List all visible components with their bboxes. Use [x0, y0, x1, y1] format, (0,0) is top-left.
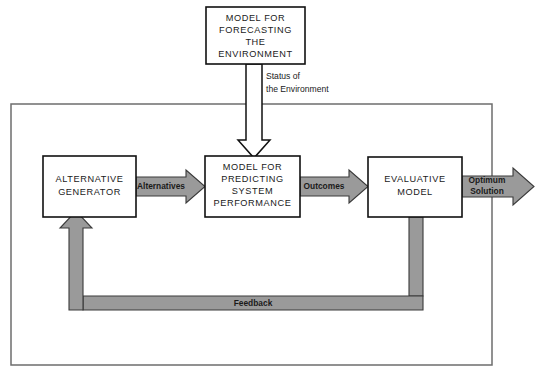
box-evaluative-model: EVALUATIVE MODEL [368, 157, 462, 217]
box-predicting-model: MODEL FOR PREDICTING SYSTEM PERFORMANCE [205, 156, 300, 217]
optimum-solution-label-line2: Solution [470, 186, 504, 196]
box-predicting-model-line-1: MODEL FOR [223, 162, 283, 172]
alternatives-label: Alternatives [137, 181, 185, 191]
box-alternative-generator-line-1: ALTERNATIVE [55, 174, 123, 184]
optimum-solution-label-line1: Optimum [469, 175, 506, 185]
box-alternative-generator-line-2: GENERATOR [58, 187, 121, 197]
diagram-canvas: Feedback Alternatives Outcomes Optimum S… [0, 0, 536, 375]
box-predicting-model-line-2: PREDICTING [221, 174, 284, 184]
box-forecasting-model-line-1: MODEL FOR [226, 13, 286, 23]
box-forecasting-model-line-2: FORECASTING [219, 25, 292, 35]
status-of-environment-note-line1: Status of [266, 71, 301, 81]
box-alternative-generator: ALTERNATIVE GENERATOR [43, 156, 136, 217]
feedback-label: Feedback [234, 298, 273, 308]
box-evaluative-model-line-2: MODEL [397, 187, 433, 197]
box-forecasting-model-line-4: ENVIRONMENT [218, 49, 293, 59]
box-forecasting-model: MODEL FOR FORECASTING THE ENVIRONMENT [206, 7, 305, 64]
box-evaluative-model-line-1: EVALUATIVE [384, 174, 445, 184]
box-predicting-model-line-4: PERFORMANCE [213, 198, 291, 208]
box-predicting-model-line-3: SYSTEM [232, 186, 273, 196]
box-forecasting-model-line-3: THE [245, 37, 265, 47]
feedback-loop-arrow [60, 211, 423, 310]
status-of-environment-note-line2: the Environment [266, 84, 329, 94]
systems-analysis-diagram: Feedback Alternatives Outcomes Optimum S… [0, 0, 536, 375]
outcomes-label: Outcomes [304, 181, 345, 191]
